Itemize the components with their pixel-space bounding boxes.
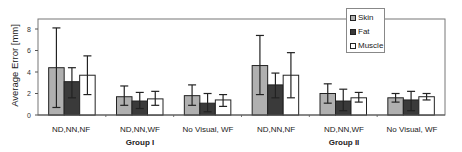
legend-label-muscle: Muscle (358, 41, 383, 50)
category-label: ND,NN,NF (37, 125, 105, 134)
bar-chart: 02468 Average Error [mm] Skin Fat Muscle… (0, 0, 462, 152)
group-label-2: Group II (304, 138, 384, 147)
group-label-1: Group I (100, 138, 180, 147)
legend: Skin Fat Muscle (346, 8, 385, 53)
y-tick-label: 8 (27, 26, 31, 33)
y-tick-label: 6 (27, 47, 31, 54)
category-label: No Visual, WF (174, 125, 242, 134)
category-label: ND,NN,WF (310, 125, 378, 134)
category-label: ND,NN,NF (242, 125, 310, 134)
y-tick-label: 4 (27, 69, 31, 76)
category-label: ND,NN,WF (106, 125, 174, 134)
y-axis-title: Average Error [mm] (9, 16, 20, 116)
legend-swatch-skin (350, 15, 356, 21)
legend-label-skin: Skin (358, 13, 374, 22)
legend-item-fat: Fat (350, 27, 370, 36)
legend-swatch-muscle (350, 43, 356, 49)
category-label: No Visual, WF (378, 125, 446, 134)
legend-item-muscle: Muscle (350, 41, 383, 50)
legend-label-fat: Fat (358, 27, 370, 36)
legend-swatch-fat (350, 29, 356, 35)
legend-item-skin: Skin (350, 13, 374, 22)
y-tick-label: 0 (27, 112, 31, 119)
y-tick-label: 2 (27, 90, 31, 97)
